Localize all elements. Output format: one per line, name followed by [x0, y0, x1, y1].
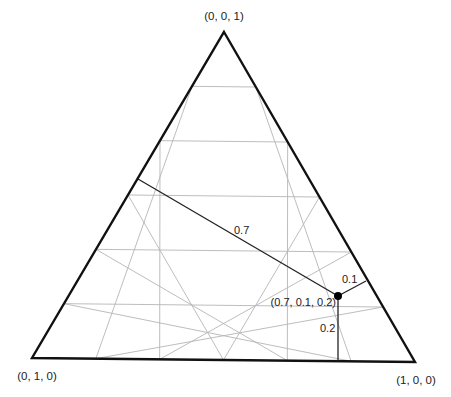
- vertex-label-top: (0, 0, 1): [204, 10, 244, 22]
- grid-line-horizontal: [160, 141, 288, 142]
- guide-label-0.1: 0.1: [342, 273, 357, 285]
- ternary-diagram: (0, 0, 1) (0, 1, 0) (1, 0, 0) (0.7, 0.1,…: [0, 0, 451, 397]
- guide-label-0.2: 0.2: [320, 322, 335, 334]
- grid-line-diagonal-left: [256, 87, 351, 361]
- vertex-label-left: (0, 1, 0): [17, 370, 57, 382]
- grid-line-horizontal: [192, 86, 256, 87]
- point-coordinate-label: (0.7, 0.1, 0.2): [271, 296, 336, 308]
- grid-line-horizontal: [128, 195, 320, 197]
- vertex-label-right: (1, 0, 0): [396, 374, 436, 386]
- grid-line-diagonal-left: [224, 197, 320, 360]
- grid-line-diagonal-right: [128, 195, 224, 360]
- triangle-frame: [32, 32, 415, 362]
- guide-label-0.7: 0.7: [234, 224, 249, 236]
- ternary-plot-canvas: (0, 0, 1) (0, 1, 0) (1, 0, 0) (0.7, 0.1,…: [0, 0, 451, 397]
- grid-line-diagonal-right: [64, 304, 351, 362]
